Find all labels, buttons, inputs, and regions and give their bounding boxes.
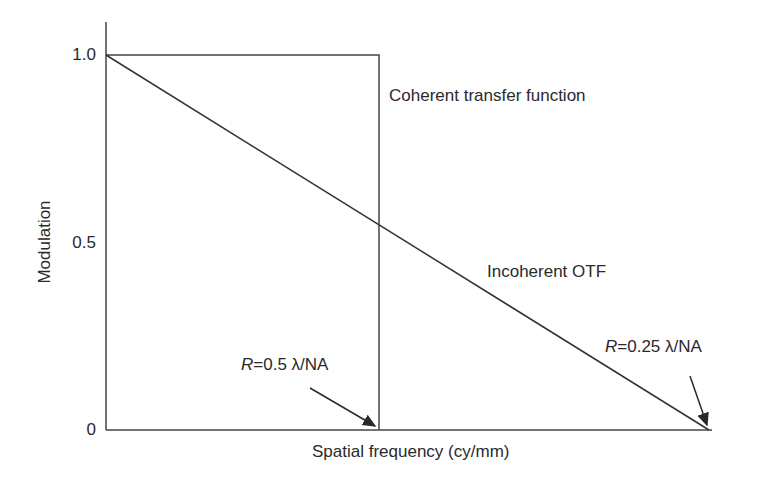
- y-tick-0: 0: [56, 420, 96, 440]
- chart: 1.0 0.5 0 Modulation Spatial frequency (…: [0, 0, 764, 493]
- annotation-r-symbol: R: [241, 355, 253, 374]
- annotation-incoherent-cutoff: R=0.25 λ/NA: [605, 337, 702, 357]
- incoherent-otf-line: [106, 55, 709, 430]
- y-tick-1-0: 1.0: [56, 45, 96, 65]
- incoherent-label: Incoherent OTF: [487, 262, 606, 282]
- arrow-incoherent-cutoff: [690, 376, 707, 425]
- annotation-text: =0.25 λ/NA: [617, 337, 702, 356]
- annotation-coherent-cutoff: R=0.5 λ/NA: [241, 355, 328, 375]
- y-axis-label: Modulation: [35, 197, 55, 287]
- y-tick-0-5: 0.5: [56, 233, 96, 253]
- coherent-label: Coherent transfer function: [389, 86, 586, 106]
- arrow-coherent-cutoff: [310, 388, 375, 426]
- plot-area: [0, 0, 764, 493]
- x-axis-label: Spatial frequency (cy/mm): [312, 442, 509, 462]
- annotation-r-symbol: R: [605, 337, 617, 356]
- annotation-text: =0.5 λ/NA: [253, 355, 328, 374]
